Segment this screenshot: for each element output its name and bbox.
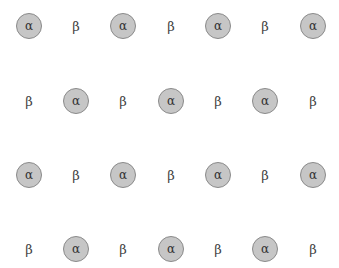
beta-site: β (110, 88, 136, 114)
alpha-label: α (119, 20, 127, 32)
beta-label: β (309, 243, 317, 256)
lattice-diagram: αβαβαβαβαβαβαβαβαβαβαβαβαβαβ (0, 0, 339, 268)
alpha-site: α (16, 162, 42, 188)
beta-label: β (25, 243, 33, 256)
beta-label: β (214, 95, 222, 108)
beta-site: β (158, 162, 184, 188)
beta-site: β (16, 88, 42, 114)
alpha-label: α (72, 243, 80, 255)
alpha-site: α (16, 13, 42, 39)
beta-site: β (63, 162, 89, 188)
beta-site: β (252, 13, 278, 39)
beta-site: β (300, 236, 326, 262)
beta-site: β (205, 236, 231, 262)
alpha-site: α (63, 236, 89, 262)
beta-label: β (119, 95, 127, 108)
beta-site: β (205, 88, 231, 114)
alpha-site: α (158, 236, 184, 262)
alpha-label: α (119, 169, 127, 181)
beta-label: β (119, 243, 127, 256)
beta-site: β (110, 236, 136, 262)
alpha-site: α (300, 162, 326, 188)
alpha-label: α (309, 169, 317, 181)
alpha-site: α (252, 88, 278, 114)
alpha-site: α (158, 88, 184, 114)
alpha-site: α (252, 236, 278, 262)
alpha-label: α (214, 20, 222, 32)
beta-site: β (16, 236, 42, 262)
beta-label: β (214, 243, 222, 256)
beta-label: β (309, 95, 317, 108)
alpha-label: α (167, 95, 175, 107)
alpha-site: α (63, 88, 89, 114)
alpha-label: α (25, 169, 33, 181)
beta-site: β (158, 13, 184, 39)
alpha-label: α (214, 169, 222, 181)
beta-site: β (300, 88, 326, 114)
beta-label: β (261, 169, 269, 182)
alpha-site: α (300, 13, 326, 39)
beta-label: β (72, 169, 80, 182)
alpha-label: α (261, 243, 269, 255)
alpha-site: α (110, 13, 136, 39)
beta-site: β (63, 13, 89, 39)
alpha-label: α (167, 243, 175, 255)
alpha-label: α (25, 20, 33, 32)
alpha-label: α (72, 95, 80, 107)
alpha-site: α (205, 13, 231, 39)
beta-label: β (167, 20, 175, 33)
beta-label: β (72, 20, 80, 33)
beta-site: β (252, 162, 278, 188)
alpha-label: α (261, 95, 269, 107)
alpha-label: α (309, 20, 317, 32)
alpha-site: α (205, 162, 231, 188)
alpha-site: α (110, 162, 136, 188)
beta-label: β (261, 20, 269, 33)
beta-label: β (25, 95, 33, 108)
beta-label: β (167, 169, 175, 182)
